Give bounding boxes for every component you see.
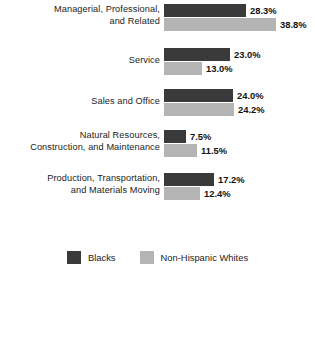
category-label: Natural Resources, Construction, and Mai… xyxy=(2,129,160,154)
bar-value-label: 38.8% xyxy=(280,18,307,31)
bar-non-hispanic-whites xyxy=(164,18,276,31)
bar-blacks xyxy=(164,4,246,17)
bar-non-hispanic-whites xyxy=(164,144,197,157)
chart-legend: BlacksNon-Hispanic Whites xyxy=(0,251,315,264)
bar-blacks xyxy=(164,89,233,102)
bar-blacks xyxy=(164,48,230,61)
bar-value-label: 17.2% xyxy=(218,173,245,186)
bar-group: Production, Transportation, and Material… xyxy=(0,172,315,200)
bar-group: Sales and Office24.0%24.2% xyxy=(0,88,315,116)
bar-blacks xyxy=(164,173,214,186)
legend-label: Non-Hispanic Whites xyxy=(161,252,249,263)
bar-value-label: 12.4% xyxy=(204,187,231,200)
legend-item: Non-Hispanic Whites xyxy=(140,251,249,264)
bar-value-label: 23.0% xyxy=(234,48,261,61)
occupation-distribution-bar-chart: Managerial, Professional, and Related28.… xyxy=(0,0,315,349)
bar-group: Managerial, Professional, and Related28.… xyxy=(0,3,315,31)
bar-value-label: 7.5% xyxy=(190,130,211,143)
bar-blacks xyxy=(164,130,186,143)
category-label: Production, Transportation, and Material… xyxy=(2,172,160,197)
category-label: Sales and Office xyxy=(2,88,160,107)
category-label: Managerial, Professional, and Related xyxy=(2,3,160,28)
bar-non-hispanic-whites xyxy=(164,187,200,200)
legend-label: Blacks xyxy=(88,252,116,263)
legend-item: Blacks xyxy=(67,251,116,264)
bar-non-hispanic-whites xyxy=(164,62,202,75)
bar-group: Service23.0%13.0% xyxy=(0,47,315,75)
category-label: Service xyxy=(2,47,160,66)
bar-value-label: 24.0% xyxy=(237,89,264,102)
bar-value-label: 13.0% xyxy=(206,62,233,75)
bar-non-hispanic-whites xyxy=(164,103,234,116)
legend-swatch-light xyxy=(140,251,154,264)
bar-value-label: 11.5% xyxy=(201,144,227,157)
bar-value-label: 28.3% xyxy=(250,4,277,17)
bar-value-label: 24.2% xyxy=(238,103,265,116)
legend-swatch-dark xyxy=(67,251,81,264)
bar-group: Natural Resources, Construction, and Mai… xyxy=(0,129,315,157)
